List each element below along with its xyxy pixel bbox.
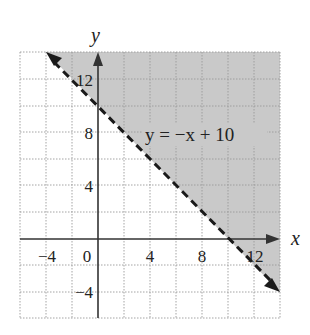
equation-label: y = −x + 10 bbox=[145, 124, 234, 145]
x-tick-8: 8 bbox=[198, 247, 207, 266]
y-axis-label: y bbox=[89, 24, 100, 47]
y-tick-4: 4 bbox=[85, 177, 94, 196]
x-tick-neg4: −4 bbox=[38, 247, 57, 266]
x-tick-0: 0 bbox=[83, 247, 92, 266]
y-tick-neg4: −4 bbox=[75, 283, 94, 302]
x-axis-label: x bbox=[290, 227, 300, 249]
x-tick-4: 4 bbox=[146, 247, 155, 266]
x-tick-12: 12 bbox=[247, 247, 264, 266]
graph: −4 0 4 8 12 12 8 4 −4 x y y = −x + 10 bbox=[0, 0, 310, 335]
y-tick-8: 8 bbox=[85, 124, 94, 143]
y-tick-12: 12 bbox=[76, 71, 93, 90]
